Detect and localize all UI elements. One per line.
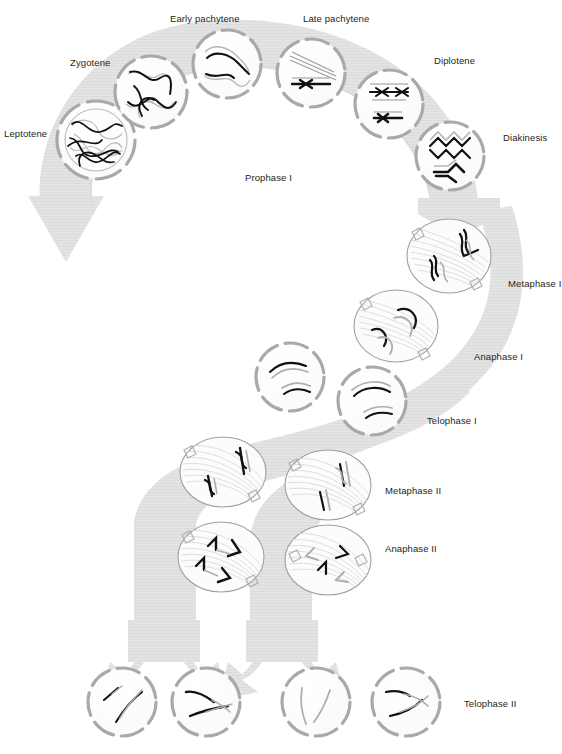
label-anaphase-1: Anaphase I: [474, 351, 523, 362]
label-late-pachytene: Late pachytene: [303, 13, 369, 24]
label-prophase-1: Prophase I: [245, 172, 292, 183]
label-telophase-2: Telophase II: [464, 698, 516, 709]
cell-telophase-2-4: [372, 668, 440, 736]
label-metaphase-2: Metaphase II: [385, 485, 441, 496]
cell-diakinesis: [416, 122, 484, 190]
label-metaphase-1: Metaphase I: [508, 278, 561, 289]
cell-telophase-1-b: [338, 367, 406, 435]
diagram-artwork: [0, 0, 562, 754]
cell-telophase-2-1: [88, 668, 156, 736]
cell-anaphase-1: [354, 290, 438, 362]
cell-anaphase-2-a: [178, 522, 264, 592]
cell-metaphase-2-b: [285, 450, 371, 520]
label-telophase-1: Telophase I: [427, 415, 477, 426]
label-diakinesis: Diakinesis: [503, 132, 547, 143]
cell-telophase-2-3: [282, 668, 350, 736]
label-early-pachytene: Early pachytene: [170, 13, 240, 24]
cell-anaphase-2-b: [285, 525, 371, 595]
cell-telophase-2-2: [172, 668, 240, 736]
cell-metaphase-2-a: [180, 437, 266, 507]
cell-late-pachytene: [277, 39, 345, 107]
label-zygotene: Zygotene: [70, 57, 110, 68]
label-anaphase-2: Anaphase II: [385, 543, 437, 554]
label-diplotene: Diplotene: [434, 55, 475, 66]
cell-diplotene: [355, 70, 423, 138]
label-leptotene: Leptotene: [4, 128, 47, 139]
cell-telophase-1-a: [256, 343, 324, 411]
cell-early-pachytene: [193, 30, 261, 98]
cell-metaphase-1: [407, 219, 491, 293]
cell-zygotene: [115, 56, 187, 128]
meiosis-diagram: Leptotene Zygotene Early pachytene Late …: [0, 0, 562, 754]
